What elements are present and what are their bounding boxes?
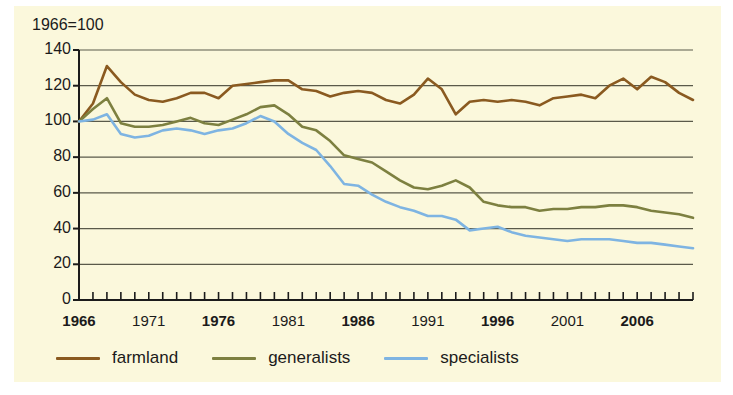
y-axis-tick-label: 0 bbox=[25, 290, 71, 308]
x-axis-tick-label: 1976 bbox=[202, 312, 235, 329]
legend-label: specialists bbox=[440, 348, 518, 368]
chart-legend: farmlandgeneralistsspecialists bbox=[56, 348, 553, 368]
legend-item: farmland bbox=[56, 348, 178, 368]
y-axis-tick-label: 120 bbox=[25, 76, 71, 94]
series-line-generalists bbox=[79, 98, 693, 218]
legend-label: generalists bbox=[268, 348, 350, 368]
y-axis-tick-label: 40 bbox=[25, 219, 71, 237]
legend-swatch-icon bbox=[212, 357, 256, 360]
x-axis-tick-label: 1966 bbox=[62, 312, 95, 329]
y-axis-tick-label: 100 bbox=[25, 111, 71, 129]
legend-label: farmland bbox=[112, 348, 178, 368]
y-axis-tick-label: 60 bbox=[25, 183, 71, 201]
y-axis-tick-label: 80 bbox=[25, 147, 71, 165]
chart-plot-area bbox=[0, 0, 733, 395]
x-axis-tick-label: 2001 bbox=[551, 312, 584, 329]
chart-figure: 1966=100 140120100806040200 196619711976… bbox=[0, 0, 733, 395]
x-axis-tick-label: 2006 bbox=[620, 312, 653, 329]
y-axis-tick-label: 140 bbox=[25, 40, 71, 58]
x-axis-tick-label: 1991 bbox=[411, 312, 444, 329]
x-axis-tick-label: 1981 bbox=[272, 312, 305, 329]
legend-item: specialists bbox=[384, 348, 518, 368]
legend-swatch-icon bbox=[56, 357, 100, 360]
x-axis-tick-label: 1971 bbox=[132, 312, 165, 329]
legend-item: generalists bbox=[212, 348, 350, 368]
x-axis-tick-label: 1986 bbox=[341, 312, 374, 329]
series-line-farmland bbox=[79, 66, 693, 121]
y-axis-tick-label: 20 bbox=[25, 254, 71, 272]
legend-swatch-icon bbox=[384, 357, 428, 360]
x-axis-tick-label: 1996 bbox=[481, 312, 514, 329]
